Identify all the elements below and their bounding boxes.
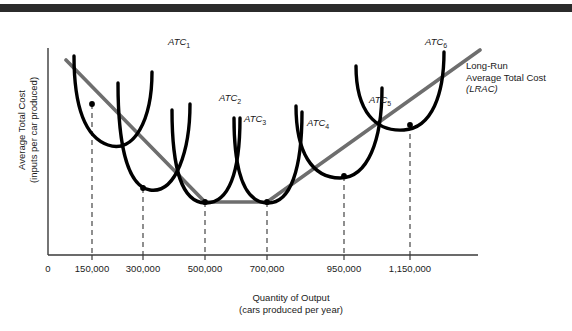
x-tick-label: 300,000 (126, 263, 160, 274)
tangency-dot (202, 199, 208, 205)
tangency-dot (341, 173, 347, 179)
curve-label-atc1: ATC1 (168, 36, 190, 49)
y-axis-title: Average Total Cost (inputs per car produ… (16, 40, 40, 220)
x-axis-title: Quantity of Output (cars produced per ye… (186, 292, 396, 316)
curve-label-atc2: ATC2 (219, 92, 241, 105)
x-tick-label: 950,000 (327, 263, 361, 274)
atc-curve-atc6 (356, 52, 444, 130)
tangency-dot (264, 199, 270, 205)
atc-curve-atc1 (74, 56, 152, 146)
chart-plot-area: Average Total Cost (inputs per car produ… (0, 0, 572, 331)
cost-curves-svg (0, 0, 572, 331)
x-tick-label: 1,150,000 (389, 263, 431, 274)
curve-label-atc6: ATC6 (425, 36, 447, 49)
tangency-dot (89, 101, 95, 107)
tangency-dot (140, 185, 146, 191)
x-axis-ticks (92, 255, 410, 260)
atc-curves-group (74, 52, 444, 203)
x-tick-label: 700,000 (250, 263, 284, 274)
curve-label-atc4: ATC4 (307, 117, 329, 130)
x-tick-label: 150,000 (75, 263, 109, 274)
tangency-dot (407, 122, 413, 128)
lrac-annotation-label: Long-RunAverage Total Cost(LRAC) (466, 60, 546, 95)
curve-label-atc5: ATC5 (369, 94, 391, 107)
curve-label-atc3: ATC3 (244, 113, 266, 126)
x-tick-label: 0 (45, 263, 50, 274)
x-tick-label: 500,000 (188, 263, 222, 274)
